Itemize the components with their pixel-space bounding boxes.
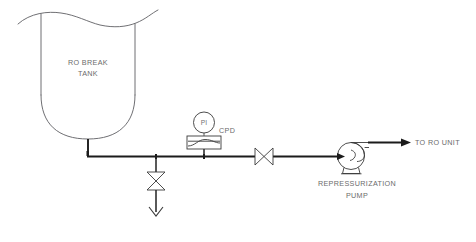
repressurization-pump: REPRESSURIZATION PUMP <box>318 143 396 200</box>
pid-drawing: RO BREAK TANK <box>0 0 476 242</box>
discharge-to-ro-unit: TO RO UNIT <box>368 138 460 147</box>
cpd-equipment-tag: CPD <box>219 126 235 135</box>
tank-liquid-surface-wave <box>18 10 158 27</box>
tank-label-line1: RO BREAK <box>68 58 108 67</box>
outlet-destination-label: TO RO UNIT <box>415 138 460 147</box>
tank-label-line2: TANK <box>78 69 98 78</box>
ro-break-tank: RO BREAK TANK <box>18 10 158 139</box>
pump-suction-valve[interactable] <box>255 148 273 165</box>
pump-label-line1: REPRESSURIZATION <box>318 179 396 188</box>
header-junction-tick-outlet <box>87 151 90 156</box>
tank-dished-bottom <box>41 95 135 139</box>
drain-assembly <box>147 157 165 216</box>
pump-suction-valve-bowtie[interactable] <box>255 148 273 165</box>
discharge-flow-arrow-icon <box>401 139 411 147</box>
drain-valve-bowtie[interactable] <box>147 172 165 190</box>
cpd-filter-assembly: PI CPD <box>187 112 235 156</box>
pid-diagram-canvas: RO BREAK TANK <box>0 0 476 242</box>
pi-gauge-tag: PI <box>201 119 208 126</box>
pump-label-line2: PUMP <box>346 191 368 200</box>
